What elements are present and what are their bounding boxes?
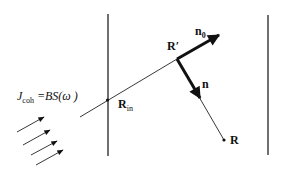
label-n0-sub: 0 <box>202 31 206 40</box>
label-r-in-main: R <box>118 97 127 111</box>
observation-point-dot <box>222 138 225 141</box>
n-arrow <box>177 59 200 98</box>
entry-point-dot <box>106 98 109 101</box>
label-n0-main: n <box>195 24 202 38</box>
formula-rhs: =BS(ω ) <box>37 89 78 103</box>
label-r: R <box>230 134 239 146</box>
label-r-prime: R′ <box>167 40 179 52</box>
label-n0: n0 <box>195 25 206 40</box>
label-n: n <box>202 78 209 90</box>
flux-formula: Jcoh =BS(ω ) <box>17 90 78 105</box>
label-r-in: Rin <box>118 98 133 113</box>
diagram-canvas: R′ n0 n Rin R Jcoh =BS(ω ) <box>0 0 281 169</box>
formula-subscript: coh <box>22 96 34 105</box>
incoming-flux-arrows <box>17 117 63 165</box>
label-r-in-sub: in <box>127 104 133 113</box>
